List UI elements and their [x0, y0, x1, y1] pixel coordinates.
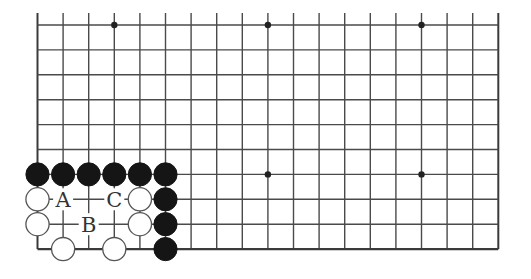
black-stone — [52, 163, 75, 186]
point-label-b: B — [81, 213, 96, 237]
black-stone — [26, 163, 49, 186]
point-label-a: A — [55, 188, 72, 212]
white-stone — [128, 213, 151, 236]
white-stone — [26, 188, 49, 211]
white-stone — [26, 213, 49, 236]
white-stone — [128, 188, 151, 211]
white-stone — [103, 238, 126, 261]
star-point — [418, 22, 424, 28]
stones-layer — [26, 163, 177, 261]
black-stone — [103, 163, 126, 186]
go-board: ACB — [0, 0, 531, 279]
star-point — [265, 22, 271, 28]
black-stone — [154, 163, 177, 186]
black-stone — [154, 188, 177, 211]
star-point — [111, 22, 117, 28]
black-stone — [154, 238, 177, 261]
black-stone — [154, 213, 177, 236]
white-stone — [52, 238, 75, 261]
star-point — [265, 171, 271, 177]
black-stone — [128, 163, 151, 186]
black-stone — [77, 163, 100, 186]
board-grid — [38, 13, 499, 249]
point-label-c: C — [106, 188, 122, 212]
star-point — [418, 171, 424, 177]
